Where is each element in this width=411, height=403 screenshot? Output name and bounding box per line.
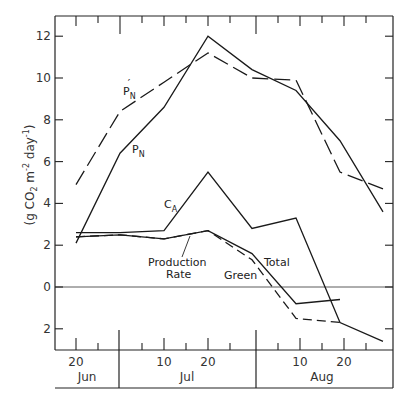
- plot-frame: [55, 16, 393, 388]
- x-tick-label: 20: [200, 355, 215, 369]
- x-tick-label: 20: [336, 355, 351, 369]
- series-line-4: [76, 231, 340, 323]
- series-line-0: [76, 53, 383, 189]
- y-tick-label: 12: [36, 29, 51, 43]
- y-tick-label: 2: [43, 238, 51, 252]
- y-tick-label: 2: [43, 322, 51, 336]
- series-lines: [76, 36, 383, 341]
- y-tick-label: 8: [43, 113, 51, 127]
- x-tick-label: 10: [292, 355, 307, 369]
- y-tick-label: 10: [36, 71, 51, 85]
- series-label-pn: PN: [132, 143, 145, 159]
- production-rate-leader: [182, 236, 190, 257]
- series-label-green: Green: [224, 269, 257, 282]
- month-label-jul: Jul: [179, 370, 194, 384]
- y-axis-label: (g CO2 m-2 day-1): [22, 124, 39, 225]
- series-line-1: [76, 36, 383, 243]
- x-axis-ticks: 2010201020: [68, 16, 366, 369]
- series-label-ca: CA: [164, 198, 178, 214]
- month-label-jun: Jun: [77, 370, 97, 384]
- y-tick-label: 4: [43, 196, 51, 210]
- y-axis-ticks: 1210864202: [36, 29, 393, 336]
- x-tick-label: 20: [68, 355, 83, 369]
- chart: 1210864202 2010201020 (g CO2 m-2 day-1) …: [0, 0, 411, 403]
- annotation-rate: Rate: [166, 268, 191, 281]
- y-tick-label: 6: [43, 155, 51, 169]
- x-tick-label: 10: [156, 355, 171, 369]
- series-line-3: [76, 231, 340, 304]
- y-tick-label: 0: [43, 280, 51, 294]
- series-label-total: Total: [263, 256, 290, 269]
- series-line-2: [76, 172, 383, 341]
- month-label-aug: Aug: [310, 370, 333, 384]
- series-label-pn-prime: PN′: [123, 77, 136, 101]
